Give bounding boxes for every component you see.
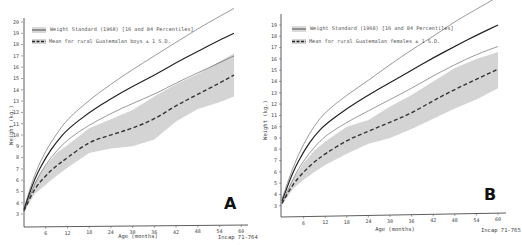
y-tick-label: 9 — [274, 135, 277, 141]
y-tick-label: 15 — [13, 75, 19, 81]
sd-band-a — [24, 54, 234, 212]
x-tick-label: 48 — [452, 217, 458, 223]
y-tick-label: 9 — [16, 143, 19, 149]
y-tick-label: 18 — [13, 41, 19, 47]
y-tick-label: 3 — [274, 203, 277, 209]
footer-code-a: Incap 71-764 — [218, 234, 258, 241]
legend-mean-label: Mean for rural Guatemalan boys ± 1 S.D. — [49, 38, 171, 45]
figure: 34567891011121314151617181920 6121824303… — [0, 0, 522, 245]
y-tick-label: 16 — [271, 56, 277, 62]
y-tick-label: 7 — [274, 157, 277, 163]
y-tick-label: 12 — [271, 101, 277, 107]
x-tick-label: 18 — [344, 219, 350, 225]
y-axis-title-a: Weight (kg.) — [8, 105, 15, 145]
x-tick-label: 54 — [473, 217, 479, 223]
x-tick-label: 48 — [195, 228, 201, 234]
y-tick-label: 8 — [16, 154, 19, 160]
x-tick-label: 24 — [365, 218, 371, 224]
legend-standard-label: Weight Standard (1968) [16 and 84 Percen… — [310, 25, 454, 32]
x-tick-label: 18 — [86, 229, 92, 235]
y-tick-label: 8 — [274, 146, 277, 152]
y-tick-label: 17 — [13, 53, 19, 59]
y-tick-label: 11 — [271, 112, 277, 118]
sd-band-b — [282, 52, 498, 205]
y-tick-label: 14 — [13, 87, 19, 93]
x-tick-label: 6 — [44, 230, 47, 236]
x-tick-label: 12 — [322, 219, 328, 225]
panel-letter-a: A — [224, 194, 237, 213]
x-tick-label: 12 — [64, 230, 70, 236]
legend-standard-label: Weight Standard (1968) [16 and 84 Percen… — [50, 26, 194, 33]
y-tick-label: 3 — [16, 211, 19, 217]
y-tick-label: 7 — [16, 166, 19, 172]
x-tick-label: 42 — [430, 217, 436, 223]
y-tick-label: 5 — [16, 188, 19, 194]
x-tick-label: 36 — [409, 218, 415, 224]
y-tick-label: 6 — [274, 169, 277, 175]
y-tick-label: 4 — [274, 191, 277, 197]
x-axis-b — [281, 213, 506, 217]
y-ticks-a: 34567891011121314151617181920 — [13, 19, 23, 217]
x-tick-label: 42 — [173, 229, 179, 235]
chart-a: 34567891011121314151617181920 6121824303… — [8, 8, 258, 241]
x-axis-title-b: Age (months) — [375, 226, 415, 233]
y-tick-label: 5 — [274, 180, 277, 186]
y-ticks-b: 345678910111213141516171819 — [271, 22, 281, 209]
legend-a: Weight Standard (1968) [16 and 84 Percen… — [32, 26, 194, 45]
y-tick-label: 13 — [271, 90, 277, 96]
y-tick-label: 18 — [271, 33, 277, 39]
y-tick-label: 10 — [271, 124, 277, 130]
y-tick-label: 15 — [271, 67, 277, 73]
y-tick-label: 14 — [271, 78, 277, 84]
y-tick-label: 19 — [13, 30, 19, 36]
y-tick-label: 16 — [13, 64, 19, 70]
y-tick-label: 19 — [271, 22, 277, 28]
y-tick-label: 17 — [271, 44, 277, 50]
legend-b: Weight Standard (1968) [16 and 84 Percen… — [292, 25, 454, 44]
x-axis-a — [24, 225, 248, 227]
x-axis-title-a: Age (months) — [118, 233, 158, 240]
x-tick-label: 24 — [108, 229, 114, 235]
footer-code-b: Incap 71-765 — [481, 227, 521, 234]
panel-letter-b: B — [484, 185, 496, 204]
y-tick-label: 6 — [16, 177, 19, 183]
x-tick-label: 30 — [387, 218, 393, 224]
x-tick-label: 60 — [495, 216, 501, 222]
y-tick-label: 13 — [13, 98, 19, 104]
x-tick-label: 6 — [302, 220, 305, 226]
y-axis-title-b: Weight (kg.) — [262, 100, 269, 140]
chart-b: 345678910111213141516171819 612182430364… — [262, 0, 521, 234]
legend-mean-label: Mean for rural Guatemalan females ± 1 S.… — [309, 38, 440, 44]
y-tick-label: 20 — [13, 19, 19, 25]
y-tick-label: 4 — [16, 200, 19, 206]
